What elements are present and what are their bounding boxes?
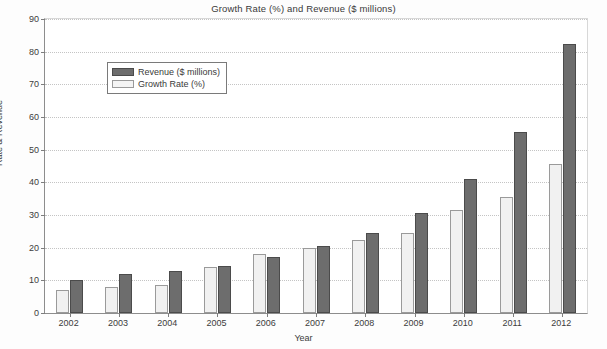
bar-revenue-2003 — [119, 274, 132, 313]
x-tick-label: 2003 — [108, 318, 128, 328]
y-tick-label: 70 — [29, 79, 39, 89]
y-tick-mark — [41, 150, 45, 151]
legend-label-growth-rate: Growth Rate (%) — [138, 78, 205, 90]
x-tick-mark — [513, 313, 514, 317]
y-tick-label: 0 — [34, 308, 39, 318]
x-tick-label: 2004 — [157, 318, 177, 328]
chart-figure: Growth Rate (%) and Revenue ($ millions)… — [0, 0, 607, 349]
y-tick-mark — [41, 215, 45, 216]
legend-swatch-revenue — [112, 68, 134, 76]
bar-growth-2008 — [352, 240, 365, 314]
x-tick-mark — [562, 313, 563, 317]
x-tick-label: 2002 — [59, 318, 79, 328]
legend-swatch-growth-rate — [112, 80, 134, 88]
bar-growth-2003 — [105, 287, 118, 313]
y-tick-label: 80 — [29, 47, 39, 57]
bar-growth-2002 — [56, 290, 69, 313]
bar-revenue-2008 — [366, 233, 379, 313]
y-tick-mark — [41, 248, 45, 249]
gridline — [45, 19, 587, 20]
x-tick-label: 2005 — [206, 318, 226, 328]
bar-growth-2011 — [500, 197, 513, 313]
bar-revenue-2005 — [218, 266, 231, 313]
x-tick-mark — [267, 313, 268, 317]
bar-revenue-2010 — [464, 179, 477, 313]
chart-legend: Revenue ($ millions) Growth Rate (%) — [107, 62, 227, 94]
y-tick-label: 20 — [29, 243, 39, 253]
gridline — [45, 150, 587, 151]
chart-title: Growth Rate (%) and Revenue ($ millions) — [0, 3, 607, 14]
y-tick-label: 90 — [29, 14, 39, 24]
y-tick-label: 50 — [29, 145, 39, 155]
bar-revenue-2011 — [514, 132, 527, 313]
bar-growth-2010 — [450, 210, 463, 313]
bar-growth-2005 — [204, 267, 217, 313]
y-tick-mark — [41, 280, 45, 281]
y-tick-mark — [41, 182, 45, 183]
bar-growth-2009 — [401, 233, 414, 313]
x-tick-mark — [365, 313, 366, 317]
y-axis-label: Rate & Revenue — [0, 100, 4, 166]
bar-growth-2006 — [253, 254, 266, 313]
bar-growth-2012 — [549, 164, 562, 313]
legend-label-revenue: Revenue ($ millions) — [138, 66, 220, 78]
x-tick-label: 2006 — [256, 318, 276, 328]
x-tick-mark — [217, 313, 218, 317]
bar-revenue-2004 — [169, 271, 182, 313]
gridline — [45, 52, 587, 53]
y-tick-mark — [41, 313, 45, 314]
y-tick-mark — [41, 84, 45, 85]
bar-revenue-2012 — [563, 44, 576, 314]
bar-growth-2007 — [303, 248, 316, 313]
gridline — [45, 182, 587, 183]
bar-revenue-2006 — [267, 257, 280, 313]
x-tick-label: 2009 — [404, 318, 424, 328]
plot-area: 0102030405060708090 Revenue ($ millions)… — [44, 18, 588, 314]
y-tick-label: 60 — [29, 112, 39, 122]
x-tick-mark — [70, 313, 71, 317]
y-tick-label: 30 — [29, 210, 39, 220]
bar-revenue-2007 — [317, 246, 330, 313]
x-tick-label: 2010 — [453, 318, 473, 328]
x-tick-label: 2012 — [551, 318, 571, 328]
x-tick-mark — [415, 313, 416, 317]
bar-revenue-2009 — [415, 213, 428, 313]
x-tick-label: 2008 — [354, 318, 374, 328]
x-tick-mark — [119, 313, 120, 317]
x-tick-label: 2007 — [305, 318, 325, 328]
legend-item-growth-rate: Growth Rate (%) — [112, 78, 220, 90]
legend-item-revenue: Revenue ($ millions) — [112, 66, 220, 78]
y-tick-mark — [41, 117, 45, 118]
x-tick-mark — [464, 313, 465, 317]
gridline — [45, 117, 587, 118]
x-tick-mark — [316, 313, 317, 317]
y-tick-mark — [41, 52, 45, 53]
y-tick-mark — [41, 19, 45, 20]
x-tick-label: 2011 — [502, 318, 521, 328]
x-axis-label: Year — [0, 333, 607, 343]
x-tick-mark — [168, 313, 169, 317]
y-tick-label: 40 — [29, 177, 39, 187]
y-tick-label: 10 — [29, 275, 39, 285]
bar-revenue-2002 — [70, 280, 83, 313]
bar-growth-2004 — [155, 285, 168, 313]
